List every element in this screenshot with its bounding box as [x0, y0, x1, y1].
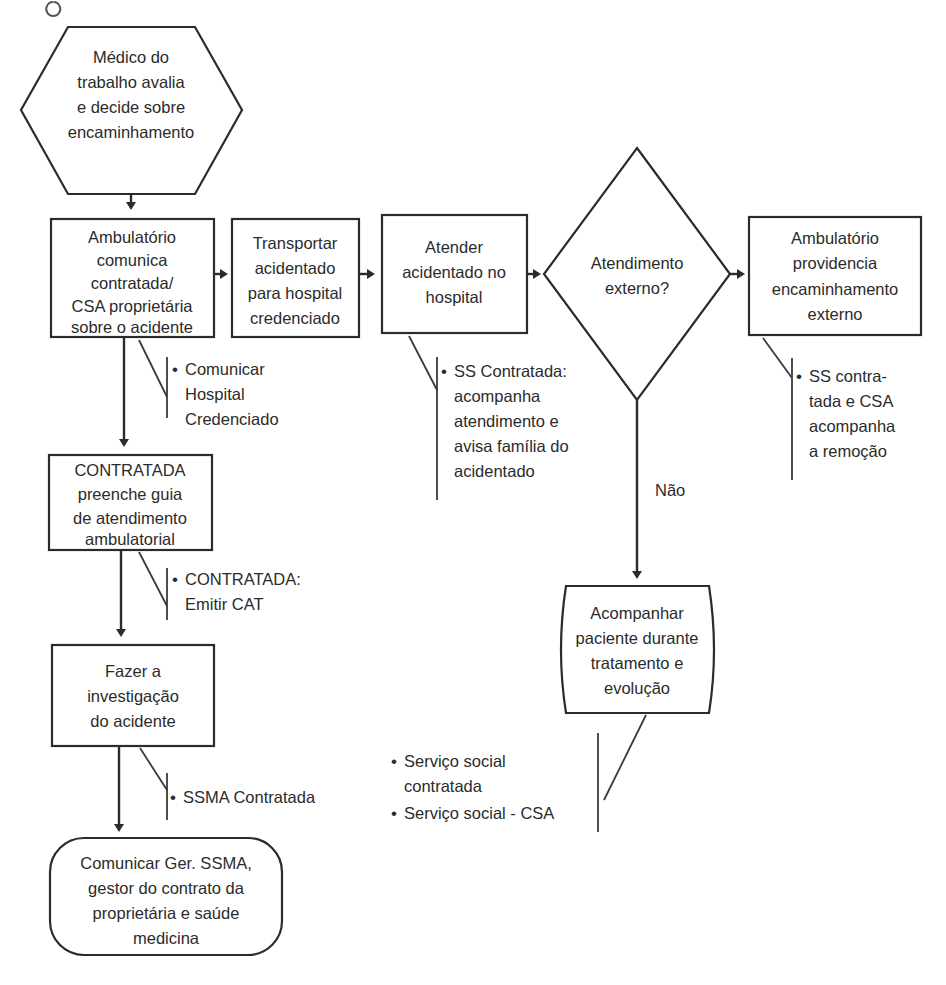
node-atender-hospital: Atender acidentado no hospital: [382, 215, 527, 333]
node-com-line-3: medicina: [133, 929, 200, 947]
note-bullet-glyph-1: •: [391, 804, 397, 823]
edge-label-nao: Não: [655, 481, 685, 499]
node-contratada-guia: CONTRATADA preenche guia de atendimento …: [49, 455, 212, 550]
note-line-2: Credenciado: [185, 410, 279, 428]
node-ambulatorio-providencia: Ambulatório providencia encaminhamento e…: [749, 217, 921, 335]
note-leader-line: [604, 715, 646, 800]
node-prov-line-3: externo: [807, 305, 862, 323]
node-transp-line-2: para hospital: [248, 284, 342, 302]
note-bullet-glyph: •: [172, 570, 178, 589]
node-com-line-2: proprietária e saúde: [93, 904, 240, 922]
node-amb-line-0: Ambulatório: [88, 228, 176, 246]
node-amb-line-1: comunica: [97, 251, 168, 269]
node-decisao-line-1: externo?: [605, 279, 669, 297]
note-ss-contratada-hospital: • SS Contratada: acompanha atendimento e…: [409, 336, 569, 500]
note-line-0: SSMA Contratada: [183, 788, 316, 806]
node-com-line-1: gestor do contrato da: [88, 879, 245, 897]
node-medico-line-0: Médico do: [93, 48, 169, 66]
flowchart-canvas: Médico do trabalho avalia e decide sobre…: [0, 0, 946, 985]
node-inv-line-0: Fazer a: [105, 662, 162, 680]
note-line-0: SS Contratada:: [454, 362, 567, 380]
node-acomp-line-2: tratamento e: [591, 654, 684, 672]
note-line-2: atendimento e: [454, 412, 559, 430]
note-line-2: Serviço social - CSA: [404, 804, 554, 822]
note-line-1: contratada: [404, 777, 483, 795]
note-leader-line: [409, 336, 437, 390]
note-line-0: Serviço social: [404, 752, 506, 770]
note-leader-line: [139, 552, 167, 606]
node-ambulatorio-comunica: Ambulatório comunica contratada/ CSA pro…: [51, 219, 214, 337]
node-transp-line-1: acidentado: [255, 259, 336, 277]
node-acomp-line-0: Acompanhar: [590, 604, 684, 622]
node-contr-line-0: CONTRATADA: [74, 461, 185, 479]
note-line-0: Comunicar: [185, 360, 265, 378]
note-bullet-glyph: •: [172, 360, 178, 379]
node-inv-line-1: investigação: [87, 687, 179, 705]
note-bullet-glyph: •: [796, 367, 802, 386]
note-line-3: a remoção: [809, 442, 887, 460]
node-medico-line-2: e decide sobre: [77, 98, 185, 116]
note-leader-line: [763, 338, 792, 378]
note-line-0: CONTRATADA:: [185, 570, 301, 588]
node-medico-avalia: Médico do trabalho avalia e decide sobre…: [21, 27, 242, 194]
node-transportar: Transportar acidentado para hospital cre…: [232, 219, 359, 337]
note-line-0: SS contra-: [809, 367, 887, 385]
note-line-1: acompanha: [454, 387, 541, 405]
scan-artifact: [46, 2, 60, 16]
node-contr-line-3: ambulatorial: [85, 530, 175, 548]
node-inv-line-2: do acidente: [90, 712, 175, 730]
node-atender-line-0: Atender: [425, 238, 483, 256]
node-com-line-0: Comunicar Ger. SSMA,: [80, 854, 251, 872]
diamond-shape: [544, 148, 730, 400]
note-ss-contratada-remocao: • SS contra- tada e CSA acompanha a remo…: [763, 338, 896, 480]
note-leader-line: [140, 748, 167, 790]
node-transp-line-3: credenciado: [250, 309, 340, 327]
note-ssma-contratada: • SSMA Contratada: [140, 748, 316, 820]
node-acomp-line-1: paciente durante: [576, 629, 699, 647]
note-comunicar-hospital: • Comunicar Hospital Credenciado: [139, 340, 279, 428]
note-line-1: tada e CSA: [809, 392, 893, 410]
node-atendimento-externo-decision: Atendimento externo?: [544, 148, 730, 400]
node-prov-line-1: providencia: [793, 254, 878, 272]
note-line-4: acidentado: [454, 462, 535, 480]
node-contr-line-1: preenche guia: [78, 485, 183, 503]
node-prov-line-0: Ambulatório: [791, 229, 879, 247]
node-acompanhar-paciente: Acompanhar paciente durante tratamento e…: [561, 586, 714, 713]
node-medico-line-1: trabalho avalia: [77, 73, 185, 91]
note-bullet-glyph: •: [441, 362, 447, 381]
note-bullet-glyph-0: •: [391, 752, 397, 771]
note-line-1: Hospital: [185, 385, 245, 403]
note-line-3: avisa família do: [454, 437, 569, 455]
note-line-2: acompanha: [809, 417, 896, 435]
node-transp-line-0: Transportar: [253, 234, 338, 252]
note-contratada-cat: • CONTRATADA: Emitir CAT: [139, 552, 301, 620]
note-leader-line: [139, 340, 167, 397]
flowchart-page: Médico do trabalho avalia e decide sobre…: [0, 0, 946, 985]
node-acomp-line-3: evolução: [604, 679, 670, 697]
node-amb-line-2: contratada/: [91, 274, 174, 292]
note-servico-social: • Serviço social contratada • Serviço so…: [391, 715, 646, 832]
node-amb-line-3: CSA proprietária: [71, 297, 193, 315]
node-medico-line-3: encaminhamento: [68, 123, 195, 141]
node-comunicar-ger-ssma: Comunicar Ger. SSMA, gestor do contrato …: [50, 838, 282, 955]
node-atender-line-2: hospital: [426, 288, 483, 306]
node-decisao-line-0: Atendimento: [591, 254, 684, 272]
note-line-1: Emitir CAT: [185, 595, 264, 613]
node-contr-line-2: de atendimento: [73, 509, 187, 527]
node-fazer-investigacao: Fazer a investigação do acidente: [52, 645, 214, 746]
node-atender-line-1: acidentado no: [402, 263, 506, 281]
note-bullet-glyph: •: [170, 788, 176, 807]
node-prov-line-2: encaminhamento: [772, 280, 899, 298]
node-amb-line-4: sobre o acidente: [71, 318, 193, 336]
